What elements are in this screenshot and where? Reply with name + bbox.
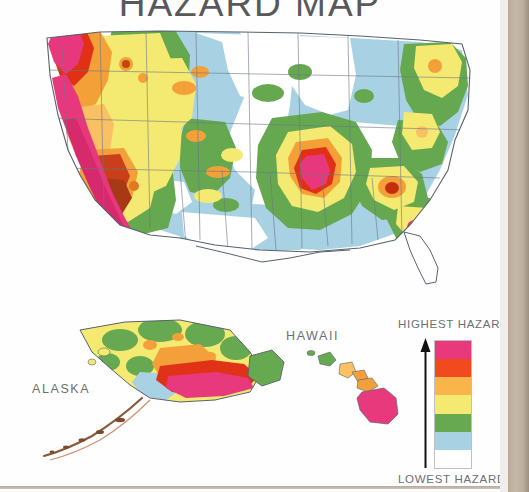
legend-band-very-high <box>435 359 471 377</box>
legend-band-moderate <box>435 395 471 413</box>
florida-outline <box>404 232 438 284</box>
page-gutter <box>500 0 508 492</box>
map-label-hawaii: HAWAII <box>286 329 339 343</box>
aleutian-islands <box>50 418 125 454</box>
legend-band-very-low <box>435 432 471 450</box>
legend-band-low <box>435 414 471 432</box>
legend-band-lowest <box>435 450 471 468</box>
legend-band-high <box>435 377 471 395</box>
aleutian-arc <box>44 398 142 456</box>
legend-lowest-label: LOWEST HAZARD <box>398 473 506 485</box>
hazard-map-page: HAZARD MAP <box>0 0 529 492</box>
legend-highest-label: HIGHEST HAZARD <box>398 318 509 330</box>
map-label-alaska: ALASKA <box>32 382 90 396</box>
hawaii-region <box>307 350 398 424</box>
alaska-region <box>70 312 280 412</box>
legend-band-highest <box>435 341 471 359</box>
page-bottom-rule <box>0 486 500 489</box>
conus-region <box>40 25 480 265</box>
legend-arrow-up-icon <box>420 338 431 468</box>
page-edge-strip <box>508 0 529 492</box>
legend-color-scale <box>434 340 472 469</box>
